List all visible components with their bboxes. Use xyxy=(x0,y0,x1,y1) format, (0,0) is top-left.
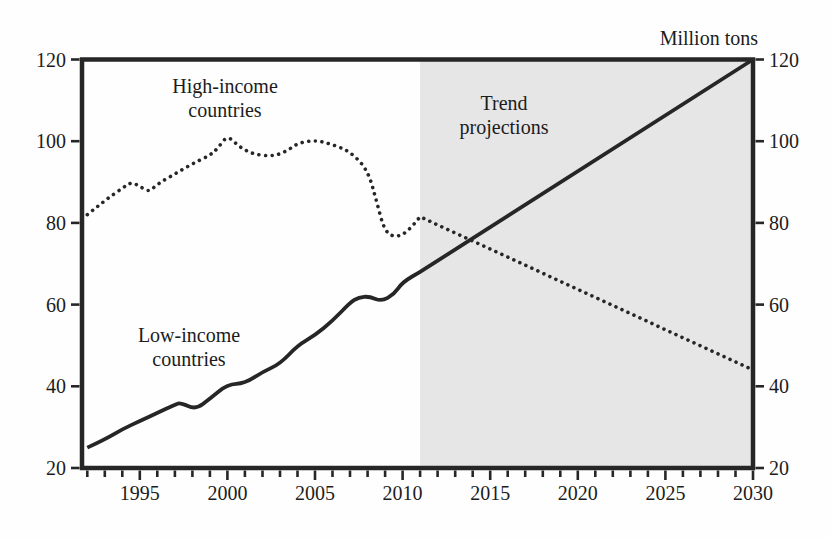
x-tick-label: 1995 xyxy=(120,482,160,504)
x-tick-label: 2030 xyxy=(733,482,773,504)
chart-figure: 2020404060608080100100120120199520002005… xyxy=(0,0,831,538)
y-tick-label-left: 100 xyxy=(36,130,66,152)
y-tick-label-right: 120 xyxy=(769,49,799,71)
x-tick-label: 2025 xyxy=(645,482,685,504)
y-tick-label-right: 60 xyxy=(769,294,789,316)
y-tick-label-left: 60 xyxy=(46,294,66,316)
x-tick-label: 2015 xyxy=(470,482,510,504)
x-tick-label: 2005 xyxy=(295,482,335,504)
x-tick-label: 2010 xyxy=(383,482,423,504)
y-tick-label-right: 40 xyxy=(769,375,789,397)
annotation-high-income-countries: High-income countries xyxy=(172,74,278,122)
chart-canvas: 2020404060608080100100120120199520002005… xyxy=(0,0,831,538)
x-tick-label: 2000 xyxy=(207,482,247,504)
y-tick-label-right: 20 xyxy=(769,457,789,479)
y-tick-label-left: 40 xyxy=(46,375,66,397)
annotation-trend-projections: Trend projections xyxy=(460,91,549,139)
y-tick-label-left: 20 xyxy=(46,457,66,479)
y-tick-label-left: 80 xyxy=(46,212,66,234)
x-tick-label: 2020 xyxy=(558,482,598,504)
y-tick-label-left: 120 xyxy=(36,49,66,71)
unit-label: Million tons xyxy=(660,27,758,50)
y-tick-label-right: 100 xyxy=(769,130,799,152)
annotation-low-income-countries: Low-income countries xyxy=(138,323,240,371)
y-tick-label-right: 80 xyxy=(769,212,789,234)
